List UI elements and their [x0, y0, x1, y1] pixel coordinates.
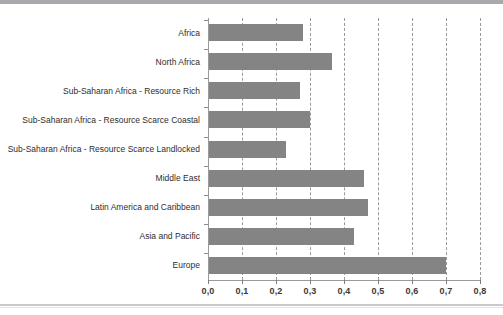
category-label: Latin America and Caribbean — [90, 203, 200, 212]
x-axis-tick-label: 0,0 — [201, 286, 214, 296]
page-edge-rule-bottom-light — [0, 307, 503, 308]
x-axis-tick — [446, 280, 447, 284]
category-label: Middle East — [156, 174, 200, 183]
category-axis-labels: AfricaNorth AfricaSub-Saharan Africa - R… — [0, 18, 204, 280]
x-axis-tick — [412, 280, 413, 284]
bar — [209, 257, 446, 274]
bar — [209, 82, 300, 99]
x-axis-tick — [276, 280, 277, 284]
x-gridline — [378, 18, 379, 280]
y-axis-tick — [204, 20, 208, 21]
category-label: Africa — [178, 28, 200, 37]
y-axis-tick — [204, 107, 208, 108]
x-gridline — [446, 18, 447, 280]
category-label: Sub-Saharan Africa - Resource Rich — [63, 87, 200, 96]
bar — [209, 199, 368, 216]
x-axis-tick-label: 0,2 — [269, 286, 282, 296]
bar — [209, 228, 354, 245]
page-edge-rule-bottom — [0, 304, 503, 306]
bar — [209, 141, 286, 158]
x-axis-tick-label: 0,4 — [337, 286, 350, 296]
category-label: Europe — [173, 261, 200, 270]
plot-area: 0,00,10,20,30,40,50,60,70,8 — [208, 18, 480, 280]
category-label: Sub-Saharan Africa - Resource Scarce Coa… — [22, 116, 200, 125]
bar — [209, 170, 364, 187]
y-axis-tick — [204, 224, 208, 225]
x-axis-tick-label: 0,3 — [303, 286, 316, 296]
y-axis-tick — [204, 137, 208, 138]
bar — [209, 53, 332, 70]
x-axis-tick-label: 0,8 — [473, 286, 486, 296]
y-axis-tick — [204, 78, 208, 79]
y-axis-tick — [204, 49, 208, 50]
x-axis-tick-label: 0,1 — [235, 286, 248, 296]
y-axis-tick — [204, 253, 208, 254]
category-label: Asia and Pacific — [140, 232, 200, 241]
chart-figure: AfricaNorth AfricaSub-Saharan Africa - R… — [0, 0, 503, 315]
x-axis-tick — [310, 280, 311, 284]
x-axis-tick — [344, 280, 345, 284]
x-axis-tick — [378, 280, 379, 284]
y-axis-tick — [204, 195, 208, 196]
x-axis-tick-label: 0,5 — [371, 286, 384, 296]
bar — [209, 24, 303, 41]
y-axis-tick — [204, 166, 208, 167]
bar — [209, 111, 310, 128]
x-axis-tick — [242, 280, 243, 284]
x-axis-tick-label: 0,6 — [405, 286, 418, 296]
x-axis-tick — [480, 280, 481, 284]
page-edge-rule-top — [0, 0, 503, 4]
x-gridline — [480, 18, 481, 280]
x-axis-tick-label: 0,7 — [439, 286, 452, 296]
category-label: Sub-Saharan Africa - Resource Scarce Lan… — [8, 145, 200, 154]
x-axis-tick — [208, 280, 209, 284]
x-gridline — [412, 18, 413, 280]
category-label: North Africa — [156, 57, 200, 66]
